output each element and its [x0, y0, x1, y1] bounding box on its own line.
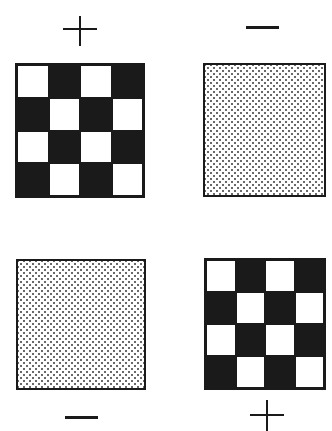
white-square [266, 325, 294, 355]
black-square [295, 324, 325, 356]
black-square [80, 98, 112, 131]
black-square [265, 292, 295, 324]
checkerboard-bottom-right [204, 258, 326, 390]
white-square [18, 66, 48, 97]
black-square [17, 98, 49, 131]
dotted-square-top-right [203, 63, 326, 197]
white-square [81, 66, 111, 97]
dotted-square-bottom-left [16, 259, 146, 390]
white-square [50, 164, 80, 195]
black-square [49, 131, 81, 164]
white-square [207, 325, 235, 355]
white-square [296, 357, 324, 387]
white-square [113, 99, 143, 130]
black-square [80, 163, 112, 196]
black-square [265, 356, 295, 388]
black-square [49, 65, 81, 98]
white-square [237, 293, 265, 323]
white-square [207, 261, 235, 291]
black-square [112, 131, 144, 164]
black-square [17, 163, 49, 196]
minus-bar [65, 416, 98, 419]
white-square [81, 132, 111, 163]
black-square [112, 65, 144, 98]
black-square [236, 260, 266, 292]
plus-sign-top-left [63, 16, 97, 50]
white-square [18, 132, 48, 163]
black-square [206, 356, 236, 388]
minus-sign-top-right [246, 26, 280, 30]
white-square [266, 261, 294, 291]
minus-bar [246, 26, 279, 29]
minus-sign-bottom-left [65, 416, 99, 420]
plus-vertical [79, 16, 81, 46]
plus-sign-bottom-right [250, 400, 284, 431]
black-square [236, 324, 266, 356]
white-square [113, 164, 143, 195]
white-square [50, 99, 80, 130]
white-square [237, 357, 265, 387]
checkerboard-top-left [15, 63, 145, 198]
black-square [295, 260, 325, 292]
black-square [206, 292, 236, 324]
white-square [296, 293, 324, 323]
plus-vertical [266, 400, 268, 431]
